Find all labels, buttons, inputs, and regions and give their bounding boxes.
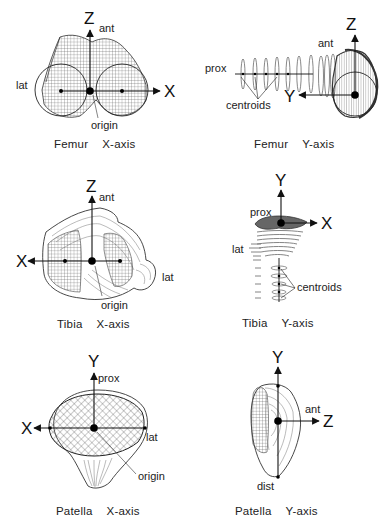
label-ant: ant <box>99 23 114 34</box>
caption-axis: Y-axis <box>282 317 314 329</box>
panel-patella-x-axis: Y prox X lat origin PatellaX-axis <box>0 350 195 528</box>
caption-tibia-y-axis: TibiaY-axis <box>242 317 314 329</box>
caption-bone: Patella <box>235 505 272 517</box>
label-ant: ant <box>99 192 114 203</box>
panel-tibia-x-axis: Z ant X lat origin TibiaX-axis <box>0 180 195 350</box>
caption-patella-y-axis: PatellaY-axis <box>235 505 318 517</box>
panel-patella-y-axis: Y ant Z dist PatellaY-axis <box>195 350 391 528</box>
patella-y-drawing <box>195 350 391 528</box>
femur-x-drawing <box>0 0 195 160</box>
caption-bone: Tibia <box>57 318 83 330</box>
label-centroids: centroids <box>297 282 342 293</box>
caption-axis: X-axis <box>97 318 130 330</box>
axis-label-y: Y <box>272 349 283 366</box>
caption-bone: Patella <box>56 505 93 517</box>
axis-label-z: Z <box>86 178 96 195</box>
label-origin: origin <box>138 471 165 482</box>
axis-label-z: Z <box>346 16 356 33</box>
caption-femur-y-axis: FemurY-axis <box>254 138 334 150</box>
label-prox: prox <box>98 373 119 384</box>
axis-label-y: Y <box>284 88 295 105</box>
label-ant: ant <box>318 38 333 49</box>
axis-label-y: Y <box>275 172 286 189</box>
label-dist: dist <box>257 481 274 492</box>
caption-bone: Femur <box>54 138 88 150</box>
label-origin: origin <box>101 300 128 311</box>
panel-tibia-y-axis: Y prox X lat centroids TibiaY-axis <box>195 180 391 350</box>
label-ant: ant <box>305 404 320 415</box>
axis-label-z: Z <box>323 413 333 430</box>
label-centroids: centroids <box>226 100 271 111</box>
caption-axis: X-axis <box>102 138 135 150</box>
caption-axis: Y-axis <box>286 505 318 517</box>
axis-label-x: X <box>21 420 32 437</box>
label-lat: lat <box>162 272 174 283</box>
axis-label-z: Z <box>84 10 94 27</box>
label-prox: prox <box>205 63 226 74</box>
label-lat: lat <box>16 80 28 91</box>
panel-femur-x-axis: Z ant lat X origin FemurX-axis <box>0 0 195 160</box>
caption-axis: Y-axis <box>302 138 334 150</box>
axis-label-x: X <box>16 253 27 270</box>
axis-label-y: Y <box>88 353 99 370</box>
label-lat: lat <box>146 432 158 443</box>
caption-bone: Tibia <box>242 317 268 329</box>
caption-axis: X-axis <box>107 505 140 517</box>
caption-patella-x-axis: PatellaX-axis <box>56 505 140 517</box>
axis-label-x: X <box>321 215 332 232</box>
caption-tibia-x-axis: TibiaX-axis <box>57 318 130 330</box>
caption-femur-x-axis: FemurX-axis <box>54 138 135 150</box>
label-lat: lat <box>232 244 244 255</box>
axis-label-x: X <box>164 83 175 100</box>
label-prox: prox <box>250 207 271 218</box>
label-origin: origin <box>91 120 118 131</box>
caption-bone: Femur <box>254 138 288 150</box>
panel-femur-y-axis: Z ant prox Y centroids FemurY-axis <box>195 0 391 160</box>
femur-y-drawing <box>195 0 391 160</box>
